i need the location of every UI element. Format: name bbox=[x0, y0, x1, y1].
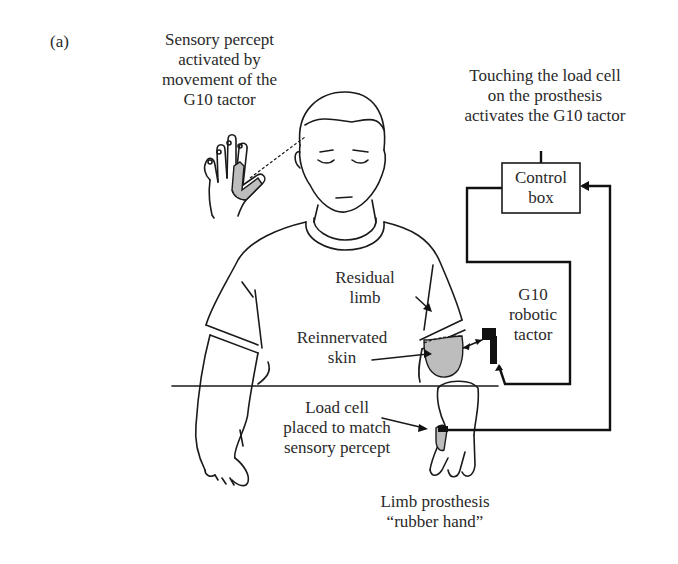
label-touching-load-cell: Touching the load cell on the prosthesis… bbox=[430, 66, 660, 126]
label-sensory-percept: Sensory percept activated by movement of… bbox=[142, 30, 297, 110]
phantom-hand-icon bbox=[205, 135, 265, 218]
label-load-cell: Load cell placed to match sensory percep… bbox=[262, 398, 412, 458]
reinnervation-diagram: (a) Sensory percept activated by movemen… bbox=[0, 0, 678, 564]
label-residual-limb: Residual limb bbox=[305, 268, 425, 308]
percept-link-line bbox=[250, 137, 305, 178]
label-reinnervated-skin: Reinnervated skin bbox=[272, 328, 412, 368]
label-g10-robotic-tactor: G10 robotic tactor bbox=[498, 285, 568, 345]
label-limb-prosthesis: Limb prosthesis “rubber hand” bbox=[350, 492, 520, 532]
robotic-tactor-icon bbox=[463, 328, 497, 364]
label-control-box: Control box bbox=[502, 168, 580, 208]
panel-label: (a) bbox=[50, 32, 69, 52]
head-icon bbox=[295, 92, 385, 222]
left-arm-icon bbox=[196, 335, 270, 486]
residual-limb-icon bbox=[424, 336, 463, 377]
